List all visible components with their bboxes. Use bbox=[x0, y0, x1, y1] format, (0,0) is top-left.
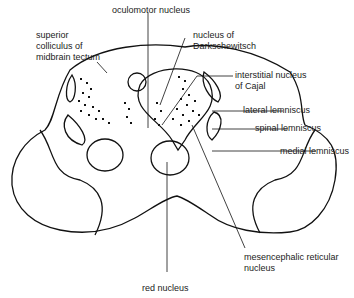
left-red-nucleus bbox=[87, 139, 123, 171]
left-peduncle-line bbox=[40, 130, 102, 235]
label-spinal-lemniscus: spinal lemniscus bbox=[255, 123, 321, 134]
label-oculomotor-nucleus: oculomotor nucleus bbox=[112, 5, 190, 16]
right-red-nucleus bbox=[151, 141, 189, 175]
label-interstitial-nucleus-cajal: interstitial nucleus of Cajal bbox=[235, 70, 307, 92]
right-medial-lemniscus bbox=[207, 112, 221, 140]
left-lateral-lemniscus bbox=[66, 75, 75, 102]
aqueduct bbox=[128, 73, 146, 91]
periaqueductal-gray bbox=[138, 69, 212, 150]
label-red-nucleus: red nucleus bbox=[142, 283, 189, 294]
label-medial-lemniscus: medial lemniscus bbox=[280, 146, 349, 157]
label-lateral-lemniscus: lateral lemniscus bbox=[243, 105, 310, 116]
right-lateral-lemniscus bbox=[203, 72, 220, 102]
label-nucleus-darkschewitsch: nucleus of Darkschewitsch bbox=[193, 30, 256, 52]
label-mesencephalic-reticular-nucleus: mesencephalic reticular nucleus bbox=[244, 252, 339, 274]
label-superior-colliculus: superior colliculus of midbrain tectum bbox=[36, 30, 100, 63]
left-medial-lemniscus bbox=[64, 115, 85, 145]
